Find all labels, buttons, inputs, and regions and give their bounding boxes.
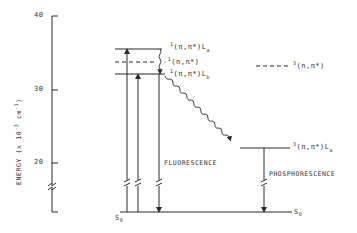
tick-label-20: 20 <box>34 158 43 166</box>
label-3npi: 3(n,π*) <box>293 60 325 70</box>
label-1npi: -1(n,π*) <box>163 56 200 66</box>
axis-title: ENERGY (x 10-3 cm-1) <box>13 98 23 185</box>
absorption-arrow-Lb <box>135 76 141 212</box>
phosphorescence-arrow <box>261 148 267 210</box>
fluorescence-arrow <box>156 74 162 210</box>
tick-label-40: 40 <box>34 11 43 19</box>
label-1La: 1(π,π*)La <box>170 41 210 53</box>
label-S0-left: S0 <box>115 214 123 223</box>
label-3La: 3(π,π*)La <box>293 141 333 153</box>
fluorescence-label: FLUORESCENCE <box>164 159 217 167</box>
label-S0-right: S0 <box>294 208 302 217</box>
energy-axis <box>48 16 58 212</box>
label-1Lb: 1(π,π*)Lb <box>170 68 210 80</box>
intersystem-crossing-arrow <box>165 76 230 139</box>
phosphorescence-label: PHOSPHORESCENCE <box>269 170 335 178</box>
tick-label-30: 30 <box>34 85 43 93</box>
energy-level-diagram <box>0 0 357 233</box>
absorption-arrow-La <box>124 51 130 212</box>
internal-conversion-arrow <box>159 49 161 72</box>
